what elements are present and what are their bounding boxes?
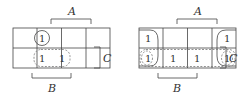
bracket-b bbox=[32, 73, 71, 78]
bracket-a bbox=[51, 19, 91, 24]
label-a-right: A bbox=[193, 5, 202, 18]
cell-one: 1 bbox=[224, 33, 230, 44]
label-b-right: B bbox=[172, 82, 181, 95]
cell-one: 1 bbox=[145, 33, 151, 44]
bracket-a bbox=[177, 19, 217, 24]
cell-one: 1 bbox=[39, 53, 45, 64]
cell-one: 1 bbox=[145, 53, 151, 64]
bracket-b bbox=[158, 73, 197, 78]
cell-one: 1 bbox=[59, 53, 65, 64]
cell-one: 1 bbox=[170, 53, 176, 64]
label-c-left: C bbox=[103, 52, 112, 65]
cell-one: 1 bbox=[194, 53, 200, 64]
kmap-right bbox=[139, 19, 236, 78]
bracket-c bbox=[94, 47, 100, 68]
karnaugh-maps: A B C 1 1 1 A B C 1 1 1 1 1 1 bbox=[0, 0, 245, 100]
label-a-left: A bbox=[67, 5, 76, 18]
cell-one: 1 bbox=[224, 53, 230, 64]
label-b-left: B bbox=[47, 82, 56, 95]
kmap-left bbox=[13, 19, 110, 78]
cell-one: 1 bbox=[39, 33, 45, 44]
